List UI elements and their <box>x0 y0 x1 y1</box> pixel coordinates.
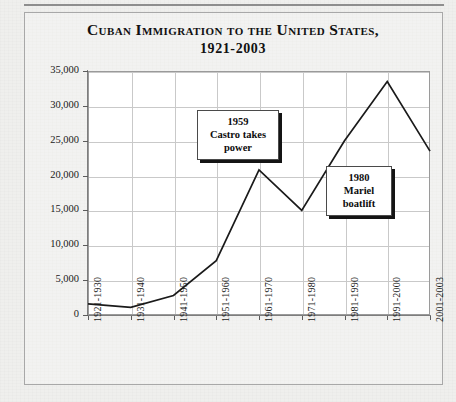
x-axis-tick-mark <box>174 316 175 320</box>
x-axis-tick-mark <box>387 316 388 320</box>
annotation-line: Castro takes <box>204 128 272 141</box>
annotation-castro-takes-power: 1959Castro takespower <box>197 110 279 160</box>
annotation-line: power <box>204 141 272 154</box>
y-axis-tick-label: 0 <box>74 308 79 319</box>
chart-title: Cuban Immigration to the United States, … <box>30 20 436 58</box>
x-axis-tick-mark <box>430 316 431 320</box>
x-axis-tick-mark <box>259 316 260 320</box>
x-axis-tick-mark <box>302 316 303 320</box>
annotation-line: 1959 <box>204 115 272 128</box>
x-axis-tick-label: 2001-2003 <box>434 277 445 322</box>
y-axis-tick-label: 35,000 <box>50 64 79 75</box>
y-axis-tick-label: 15,000 <box>50 203 79 214</box>
annotation-line: boatlift <box>333 197 385 210</box>
y-axis-tick-label: 5,000 <box>55 273 79 284</box>
y-axis-tick-label: 25,000 <box>50 134 79 145</box>
chart-title-line-1: Cuban Immigration to the United States, <box>30 20 436 40</box>
y-axis-tick-label: 20,000 <box>50 169 79 180</box>
x-axis-tick-mark <box>131 316 132 320</box>
top-horizontal-rule <box>24 4 444 6</box>
x-axis-tick-mark <box>345 316 346 320</box>
y-axis-tick-label: 10,000 <box>50 238 79 249</box>
x-axis-tick-mark <box>216 316 217 320</box>
annotation-line: Mariel <box>333 184 385 197</box>
x-axis-tick-mark <box>88 316 89 320</box>
chart-title-line-2: 1921-2003 <box>30 40 436 58</box>
y-axis-tick-label: 30,000 <box>50 99 79 110</box>
annotation-mariel-boatlift: 1980Marielboatlift <box>326 166 392 216</box>
annotation-line: 1980 <box>333 171 385 184</box>
